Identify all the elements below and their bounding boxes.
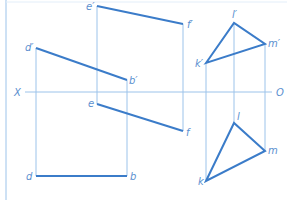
label-e-prime: e′ (86, 1, 95, 12)
label-m-prime: m′ (268, 38, 281, 49)
label-b: b (130, 171, 136, 182)
label-f-prime: f′ (187, 19, 194, 30)
edge-e-prime-f-prime (97, 6, 183, 24)
edge-e-f (97, 104, 183, 131)
label-k-prime: k′ (195, 58, 204, 69)
triangle-klm (206, 123, 265, 181)
object-edges (36, 6, 265, 181)
label-d-prime: d′ (25, 42, 34, 53)
label-e: e (88, 98, 94, 109)
label-k: k (198, 176, 205, 187)
label-m: m (268, 145, 278, 156)
label-b-prime: b′ (129, 75, 138, 86)
label-d: d (26, 171, 33, 182)
label-l-prime: l′ (232, 9, 238, 20)
edge-d-prime-b-prime (36, 48, 127, 80)
label-l: l (237, 111, 240, 122)
projection-diagram: X O d′ b′ e′ f′ e f d b k′ l′ m′ k l m (0, 0, 287, 200)
label-f: f (186, 127, 191, 138)
axis-label-x: X (13, 87, 22, 98)
projection-lines (36, 6, 265, 181)
triangle-klm-prime (206, 23, 265, 63)
axis-label-o: O (276, 87, 284, 98)
